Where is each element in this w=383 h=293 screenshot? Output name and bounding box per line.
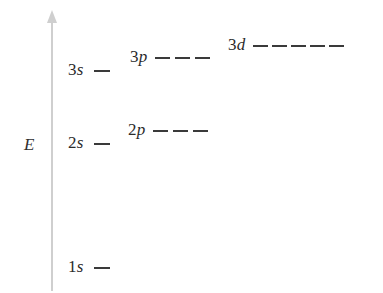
level-principal-3p: 3 <box>130 47 139 66</box>
level-principal-2p: 2 <box>128 120 137 139</box>
level-label-3s: 3s <box>68 61 84 78</box>
energy-axis-line <box>51 22 53 291</box>
orbital-dash <box>253 45 268 47</box>
orbital-dash <box>193 130 208 132</box>
energy-level-2p: 2p <box>128 121 208 138</box>
energy-level-3d: 3d <box>228 36 344 53</box>
level-dashes-3p <box>155 57 210 59</box>
level-label-1s: 1s <box>68 258 84 275</box>
level-orbital-2s: s <box>77 133 84 152</box>
level-label-3p: 3p <box>130 48 147 65</box>
energy-level-3p: 3p <box>130 48 210 65</box>
orbital-dash <box>291 45 306 47</box>
level-dashes-3d <box>253 45 344 47</box>
level-orbital-3s: s <box>77 60 84 79</box>
orbital-dash <box>94 70 110 72</box>
level-dashes-2p <box>153 130 208 132</box>
level-label-2s: 2s <box>68 134 84 151</box>
level-dashes-2s <box>94 143 110 145</box>
level-orbital-2p: p <box>137 120 146 139</box>
energy-level-diagram: E 1s2s2p3s3p3d <box>0 0 383 293</box>
level-orbital-1s: s <box>77 257 84 276</box>
level-principal-1s: 1 <box>68 257 77 276</box>
orbital-dash <box>153 130 168 132</box>
orbital-dash <box>173 130 188 132</box>
orbital-dash <box>155 57 170 59</box>
level-dashes-3s <box>94 70 110 72</box>
orbital-dash <box>329 45 344 47</box>
energy-level-2s: 2s <box>68 134 110 151</box>
orbital-dash <box>94 267 110 269</box>
energy-axis-label: E <box>24 136 34 153</box>
orbital-dash <box>94 143 110 145</box>
energy-level-3s: 3s <box>68 61 110 78</box>
level-principal-3s: 3 <box>68 60 77 79</box>
level-principal-2s: 2 <box>68 133 77 152</box>
orbital-dash <box>195 57 210 59</box>
energy-level-1s: 1s <box>68 258 110 275</box>
level-orbital-3p: p <box>139 47 148 66</box>
level-label-2p: 2p <box>128 121 145 138</box>
level-orbital-3d: d <box>237 35 246 54</box>
level-principal-3d: 3 <box>228 35 237 54</box>
orbital-dash <box>310 45 325 47</box>
level-dashes-1s <box>94 267 110 269</box>
orbital-dash <box>272 45 287 47</box>
orbital-dash <box>175 57 190 59</box>
level-label-3d: 3d <box>228 36 245 53</box>
